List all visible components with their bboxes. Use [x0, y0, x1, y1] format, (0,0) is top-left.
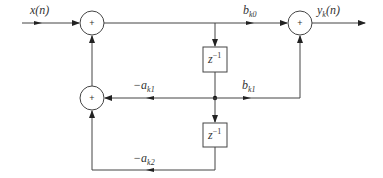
b-k1-arrow: [243, 96, 251, 100]
a-k2-label: −ak2: [133, 151, 155, 167]
a-k1-label: −ak1: [133, 78, 155, 94]
a-k1-arrow: [146, 96, 154, 100]
feedback-adder-plus: +: [89, 93, 94, 103]
input-arrow-mid: [34, 21, 42, 25]
b-k1-label: bk1: [242, 78, 256, 94]
signal-flow-diagram: x(n) + bk0 + yk(n) z−1 −ak1 bk1 + z−1 −a…: [0, 0, 383, 178]
output-adder-plus: +: [297, 18, 302, 28]
b-k0-label: bk0: [243, 3, 257, 19]
a-k2-arrow: [146, 168, 154, 172]
b-k0-arrow: [246, 21, 254, 25]
output-label: yk(n): [316, 3, 340, 19]
input-adder-plus: +: [89, 18, 94, 28]
input-label: x(n): [29, 3, 49, 17]
